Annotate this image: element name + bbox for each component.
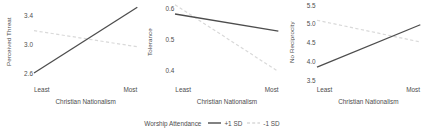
legend-swatch-solid-icon [208,120,221,126]
x-tick-least: Least [175,86,191,93]
y-tick: 3.0 [24,40,33,47]
y-tick: 0.6 [165,4,174,11]
line-minus1sd [34,31,137,47]
line-minus1sd [175,5,278,72]
legend-key-plus1sd[interactable]: +1 SD [208,120,242,127]
y-tick: 5.0 [307,20,316,27]
series-lines [317,0,420,84]
legend-swatch-dashed-icon [247,120,260,126]
line-plus1sd [175,14,278,31]
legend-label-plus1sd: +1 SD [224,120,242,127]
y-tick: 0.5 [165,35,174,42]
plot-area [34,0,137,84]
legend-title: Worship Attendance [144,120,201,127]
y-tick: 2.6 [24,70,33,77]
series-lines [175,0,278,84]
legend-key-minus1sd[interactable]: -1 SD [247,120,279,127]
legend-label-minus1sd: -1 SD [263,120,279,127]
y-tick: 3.4 [24,11,33,18]
y-tick: 4.0 [307,57,316,64]
panel-perceived-threat: Perceived Threat 2.63.03.4 Least Most Ch… [0,0,141,112]
x-axis-ticks: Least Most [175,86,278,98]
x-axis-label: Christian Nationalism [175,98,278,105]
y-axis-ticks: 3.54.04.55.05.5 [295,0,317,84]
x-tick-least: Least [317,86,333,93]
line-plus1sd [34,7,137,73]
x-axis-ticks: Least Most [34,86,137,98]
x-tick-most: Most [406,86,420,93]
panel-no-reciprocity: No Reciprocity 3.54.04.55.05.5 Least Mos… [283,0,424,112]
series-lines [34,0,137,84]
legend: Worship Attendance +1 SD -1 SD [0,113,424,133]
y-axis-ticks: 2.63.03.4 [12,0,34,84]
x-tick-most: Most [265,86,279,93]
x-tick-least: Least [34,86,50,93]
interaction-plot-figure: Perceived Threat 2.63.03.4 Least Most Ch… [0,0,424,135]
y-tick: 3.5 [307,76,316,83]
y-tick: 4.5 [307,39,316,46]
y-tick: 0.4 [165,67,174,74]
x-axis-label: Christian Nationalism [34,98,137,105]
panels-row: Perceived Threat 2.63.03.4 Least Most Ch… [0,0,424,112]
panel-tolerance: Tolerance 0.40.50.6 Least Most Christian… [141,0,282,112]
y-tick: 5.5 [307,1,316,8]
y-axis-ticks: 0.40.50.6 [153,0,175,84]
plot-area [317,0,420,84]
x-axis-label: Christian Nationalism [317,98,420,105]
x-tick-most: Most [123,86,137,93]
plot-area [175,0,278,84]
x-axis-ticks: Least Most [317,86,420,98]
